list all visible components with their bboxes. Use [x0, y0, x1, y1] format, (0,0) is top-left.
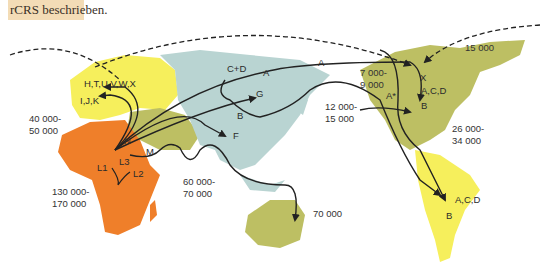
label-na-x: X — [420, 72, 426, 83]
south-america-landmass — [415, 150, 480, 262]
age-australia: 70 000 — [313, 208, 342, 220]
label-f: F — [233, 130, 239, 141]
age-south-asia: 60 000-70 000 — [183, 176, 215, 200]
label-sa-acd: A,C,D — [455, 194, 480, 205]
label-asia-a: A — [263, 67, 269, 78]
label-europe-top: H,T,U,V,W,X — [84, 78, 136, 89]
label-na-acd: A,C,D — [421, 85, 446, 96]
madagascar-landmass — [150, 200, 157, 222]
age-beringia: 12 000-15 000 — [325, 101, 357, 125]
age-americas: 26 000-34 000 — [452, 123, 484, 147]
age-alaska: 7 000-9 000 — [360, 67, 387, 91]
label-n: N — [124, 135, 131, 146]
label-g: G — [256, 88, 263, 99]
label-na-b: B — [421, 100, 427, 111]
label-sa-b: B — [446, 210, 452, 221]
label-l2: L2 — [133, 168, 144, 179]
label-l1: L1 — [97, 162, 108, 173]
label-pacific-a: A — [318, 57, 324, 68]
label-cd: C+D — [227, 63, 246, 74]
age-europe: 40 000-50 000 — [29, 113, 61, 137]
label-europe-bottom: I,J,K — [80, 95, 99, 106]
label-na-astar: A* — [386, 90, 396, 101]
age-africa: 130 000-170 000 — [52, 186, 90, 210]
label-asia-b: B — [237, 110, 243, 121]
label-l3: L3 — [119, 156, 130, 167]
age-greenland: 15 000 — [465, 42, 494, 54]
label-m: M — [146, 146, 154, 157]
